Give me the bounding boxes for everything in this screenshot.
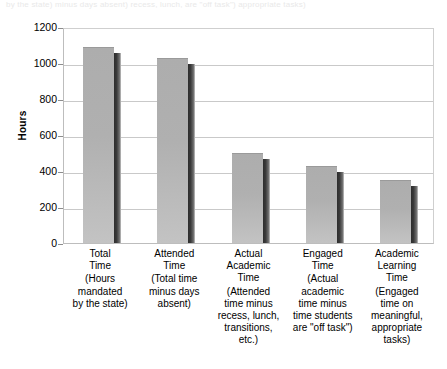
- y-tick-label-1200: 1200: [13, 22, 57, 32]
- bar-1: [83, 47, 121, 243]
- bar-2: [157, 58, 195, 243]
- bar-2-face: [157, 58, 188, 243]
- plot-area: [63, 28, 434, 244]
- y-tick-label-600: 600: [13, 130, 57, 140]
- category-label-4: Engaged Time(Actual academic time minus …: [286, 248, 360, 334]
- bar-3: [232, 153, 270, 243]
- bar-1-shadow: [114, 53, 121, 243]
- y-axis-title: Hours: [17, 96, 28, 156]
- category-label-3: Actual Academic Time(Attended time minus…: [211, 248, 285, 347]
- y-tick-label-800: 800: [13, 94, 57, 104]
- category-description-1: (Hours mandated by the state): [63, 273, 137, 310]
- y-tick-label-0: 0: [13, 238, 57, 248]
- category-title-1: Total Time: [63, 248, 137, 272]
- y-tick-mark-0: [58, 244, 63, 245]
- plot-inner: [64, 29, 433, 243]
- category-description-4: (Actual academic time minus time student…: [286, 273, 360, 334]
- x-axis-category-labels: Total Time(Hours mandated by the state)A…: [63, 248, 434, 366]
- y-tick-label-200: 200: [13, 202, 57, 212]
- category-description-2: (Total time minus days absent): [137, 273, 211, 310]
- bar-1-face: [83, 47, 114, 243]
- bar-4: [306, 166, 344, 243]
- bar-5-face: [380, 180, 411, 243]
- bar-2-shadow: [188, 64, 195, 243]
- category-label-1: Total Time(Hours mandated by the state): [63, 248, 137, 310]
- bar-3-face: [232, 153, 263, 243]
- category-description-3: (Attended time minus recess, lunch, tran…: [211, 286, 285, 347]
- category-title-4: Engaged Time: [286, 248, 360, 272]
- category-description-5: (Engaged time on meaningful, appropriate…: [360, 286, 434, 347]
- category-title-2: Attended Time: [137, 248, 211, 272]
- category-label-5: Academic Learning Time(Engaged time on m…: [360, 248, 434, 347]
- y-tick-label-400: 400: [13, 166, 57, 176]
- category-title-3: Actual Academic Time: [211, 248, 285, 285]
- category-title-5: Academic Learning Time: [360, 248, 434, 285]
- category-label-2: Attended Time(Total time minus days abse…: [137, 248, 211, 310]
- y-tick-label-1000: 1000: [13, 58, 57, 68]
- bar-5: [380, 180, 418, 243]
- bar-3-shadow: [263, 159, 270, 243]
- bar-4-face: [306, 166, 337, 243]
- bar-5-shadow: [411, 186, 418, 243]
- bar-chart: Hours 120010008006004002000 Total Time(H…: [0, 0, 447, 369]
- bar-4-shadow: [337, 172, 344, 243]
